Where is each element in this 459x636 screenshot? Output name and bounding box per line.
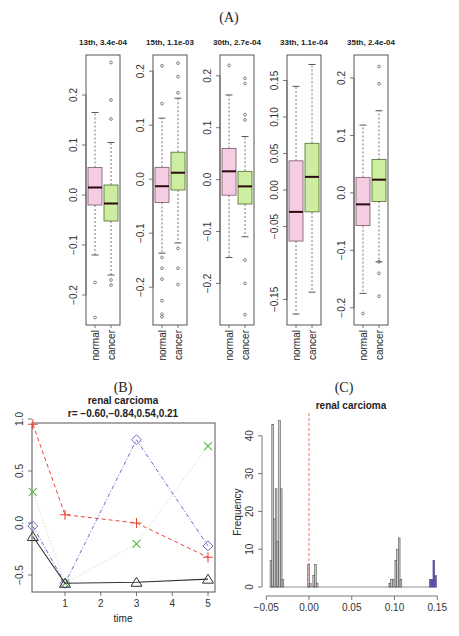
- y-tick-label: 40: [244, 430, 255, 442]
- y-tick-label: −0.1: [336, 240, 347, 260]
- outlier-point: [177, 267, 180, 270]
- boxplot-2: 15th, 1.1e-03−0.2−0.10.00.10.2normalcanc…: [135, 38, 195, 361]
- category-label: normal: [291, 330, 302, 361]
- outlier-point: [244, 82, 247, 85]
- y-tick-label: 0.00: [269, 180, 280, 200]
- boxplot-3: 30th, 2.7e-04−0.2−0.10.00.10.2normalcanc…: [202, 38, 262, 361]
- category-label: cancer: [307, 329, 318, 360]
- y-tick-label: −0.1: [68, 235, 79, 255]
- y-tick-label: 0.1: [202, 120, 213, 134]
- plot-frame: [32, 423, 215, 592]
- y-axis-label: Frequency: [232, 488, 243, 535]
- outlier-point: [161, 64, 164, 67]
- outlier-point: [244, 313, 247, 316]
- outlier-point: [110, 279, 113, 282]
- outlier-point: [161, 299, 164, 302]
- cross-marker: [29, 488, 37, 496]
- category-label: cancer: [374, 329, 385, 360]
- boxplot-title: 15th, 1.1e-03: [146, 38, 195, 47]
- series-plus: [28, 419, 213, 562]
- boxplot-title: 30th, 2.7e-04: [213, 38, 262, 47]
- outlier-point: [94, 316, 97, 319]
- cross-marker: [204, 442, 212, 450]
- y-tick-label: 0.15: [269, 70, 280, 90]
- outlier-point: [110, 99, 113, 102]
- x-tick-label: 0.15: [428, 602, 448, 613]
- boxplot-4: 33th, 1.1e-04−0.15−0.050.000.050.100.15n…: [269, 38, 329, 361]
- x-tick-label: 5: [205, 598, 211, 609]
- category-label: cancer: [106, 329, 117, 360]
- outlier-point: [228, 64, 231, 67]
- x-tick-label: 0.00: [299, 602, 319, 613]
- y-tick-label: 0.0: [14, 516, 25, 530]
- x-tick-label: 0.05: [342, 602, 362, 613]
- histogram-bar: [400, 579, 402, 587]
- y-tick-label: 0.1: [336, 128, 347, 142]
- outlier-point: [244, 77, 247, 80]
- triangle-marker: [27, 532, 38, 541]
- y-tick-label: −0.2: [68, 285, 79, 305]
- x-tick-label: 1: [62, 598, 68, 609]
- category-label: normal: [157, 330, 168, 361]
- x-tick-label: 2: [98, 598, 104, 609]
- y-tick-label: 0.1: [68, 138, 79, 152]
- outlier-point: [244, 113, 247, 116]
- figure-canvas: (A) 13th, 3.4e-04−0.2−0.10.00.10.2normal…: [0, 0, 459, 636]
- y-tick-label: 0.0: [202, 172, 213, 186]
- outlier-point: [378, 272, 381, 275]
- outlier-point: [378, 65, 381, 68]
- panel-label-b: (B): [114, 380, 133, 396]
- chart-title: renal carcioma: [316, 400, 387, 411]
- x-tick-label: 0.10: [385, 602, 405, 613]
- panel-label-a: (A): [219, 10, 239, 26]
- histogram-bar: [316, 583, 318, 587]
- y-tick-label: 30: [244, 468, 255, 480]
- outlier-point: [177, 247, 180, 250]
- category-label: normal: [224, 330, 235, 361]
- outlier-point: [362, 312, 365, 315]
- y-tick-label: 0.1: [135, 118, 146, 132]
- chart-title: renal carcioma: [88, 395, 159, 406]
- y-tick-label: −0.1: [202, 221, 213, 241]
- panel-b-line-chart: renal carciomar= −0.60,−0.84,0.54,0.21−0…: [14, 395, 215, 624]
- outlier-point: [177, 91, 180, 94]
- boxplot-title: 35th, 2.4e-04: [347, 38, 396, 47]
- box-cancer: cancer: [238, 77, 252, 360]
- y-tick-label: −0.05: [269, 213, 280, 239]
- y-tick-label: 0.0: [336, 185, 347, 199]
- y-tick-label: 0.2: [336, 71, 347, 85]
- histogram-bar: [282, 579, 284, 587]
- y-tick-label: 0.2: [202, 68, 213, 82]
- cross-marker: [133, 540, 141, 548]
- panel-label-c: (C): [335, 380, 354, 396]
- plus-marker: [60, 510, 70, 520]
- category-label: cancer: [173, 329, 184, 360]
- y-tick-label: −0.2: [135, 277, 146, 297]
- outlier-point: [110, 61, 113, 64]
- boxplot-1: 13th, 3.4e-04−0.2−0.10.00.10.2normalcanc…: [68, 38, 128, 361]
- box-cancer: cancer: [305, 64, 319, 360]
- y-tick-label: 0.0: [68, 188, 79, 202]
- y-tick-label: 1.0: [14, 412, 25, 426]
- category-label: normal: [90, 330, 101, 361]
- y-tick-label: −0.1: [135, 223, 146, 243]
- outlier-point: [161, 267, 164, 270]
- histogram-bar: [280, 489, 282, 587]
- outlier-point: [177, 62, 180, 65]
- outlier-point: [177, 75, 180, 78]
- x-tick-label: −0.05: [254, 602, 280, 613]
- y-tick-label: 10: [244, 543, 255, 555]
- y-tick-label: 0.10: [269, 107, 280, 127]
- panel-c-histogram: renal carcioma010203040Frequency−0.050.0…: [232, 400, 447, 613]
- outlier-point: [94, 281, 97, 284]
- plus-marker: [132, 518, 142, 528]
- x-tick-label: 3: [134, 598, 140, 609]
- x-axis-label: time: [114, 613, 133, 624]
- category-label: normal: [358, 330, 369, 361]
- outlier-point: [161, 278, 164, 281]
- chart-subtitle: r= −0.60,−0.84,0.54,0.21: [68, 408, 179, 419]
- box-normal: normal: [289, 86, 303, 360]
- plus-marker: [203, 552, 213, 562]
- plus-marker: [28, 419, 38, 429]
- outlier-point: [161, 256, 164, 259]
